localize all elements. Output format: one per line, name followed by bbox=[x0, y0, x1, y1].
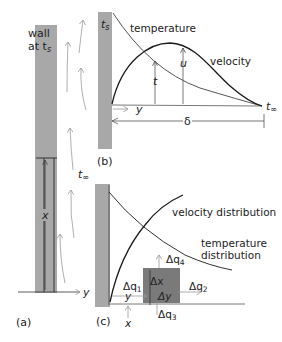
diagram-svg: x wall at ts t∞ y (a) ts y bbox=[0, 0, 282, 342]
y-axis-label-a: y bbox=[82, 286, 90, 299]
panel-c: temperature distribution velocity distri… bbox=[95, 184, 276, 329]
u-marker: u bbox=[180, 57, 187, 70]
svg-text:Δq2: Δq2 bbox=[189, 280, 208, 294]
panel-a: x wall at ts t∞ y (a) bbox=[16, 20, 90, 329]
velocity-curve-label: velocity bbox=[210, 55, 251, 67]
wall-b bbox=[98, 12, 112, 149]
y-label-c: y bbox=[124, 290, 132, 302]
wall-label-sub: s bbox=[47, 45, 51, 54]
wall-label-line1: wall bbox=[28, 27, 50, 40]
free-stream-sub-b: ∞ bbox=[270, 105, 277, 114]
flow-arrows bbox=[60, 20, 86, 283]
t-marker: t bbox=[153, 75, 158, 88]
temperature-distribution-line2: distribution bbox=[201, 249, 261, 261]
wall-label-line2: at t bbox=[28, 40, 48, 53]
wall-temp-sub-b: s bbox=[105, 23, 109, 32]
velocity-curve bbox=[112, 43, 262, 106]
y-axis-label-b: y bbox=[135, 103, 143, 116]
dx-label: Δx bbox=[150, 275, 163, 287]
panel-b: ts y δ temperature velocity t u t∞ (b) bbox=[97, 12, 277, 168]
dq2-sub: 2 bbox=[203, 285, 208, 294]
dq3-label: Δq bbox=[158, 308, 172, 320]
free-stream-sub-a: ∞ bbox=[82, 173, 89, 182]
x-label-c: x bbox=[124, 317, 132, 329]
baseline-b bbox=[112, 105, 262, 106]
svg-text:Δq4: Δq4 bbox=[166, 253, 185, 267]
natural-convection-diagram: x wall at ts t∞ y (a) ts y bbox=[0, 0, 282, 342]
svg-text:t∞: t∞ bbox=[266, 100, 277, 114]
panel-c-label: (c) bbox=[96, 315, 111, 328]
dq4-label: Δq bbox=[166, 253, 180, 265]
dq2-label: Δq bbox=[189, 280, 203, 292]
wall-c bbox=[95, 184, 110, 307]
velocity-distribution-label: velocity distribution bbox=[172, 206, 276, 218]
temperature-distribution-line1: temperature bbox=[201, 237, 267, 249]
delta-label: δ bbox=[184, 115, 191, 128]
dq3-sub: 3 bbox=[172, 313, 177, 322]
dq4-sub: 4 bbox=[180, 258, 185, 267]
x-axis-label-a: x bbox=[41, 209, 49, 222]
panel-b-label: (b) bbox=[97, 155, 113, 168]
dq1-sub: 1 bbox=[137, 285, 142, 294]
dy-label: Δy bbox=[157, 290, 172, 302]
svg-text:t∞: t∞ bbox=[78, 168, 89, 182]
panel-a-label: (a) bbox=[16, 316, 31, 329]
svg-text:Δq3: Δq3 bbox=[158, 308, 177, 322]
temperature-curve-label: temperature bbox=[130, 22, 196, 34]
